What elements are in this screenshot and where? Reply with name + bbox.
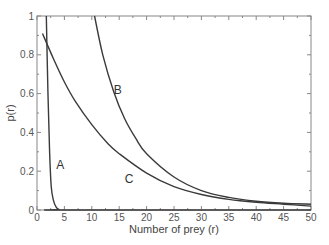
- x-tick-label: 40: [251, 212, 263, 223]
- x-tick-label: 10: [86, 212, 98, 223]
- curves: [42, 16, 311, 210]
- curve-labels: ABC: [56, 83, 133, 186]
- y-tick-label: 0.6: [20, 88, 34, 99]
- x-axis-label: Number of prey (r): [129, 223, 219, 235]
- y-tick-label: 0.8: [20, 49, 34, 60]
- x-tick-label: 20: [141, 212, 153, 223]
- x-tick-label: 45: [278, 212, 290, 223]
- curve-a: [45, 16, 311, 210]
- y-axis-label: p(r): [4, 104, 16, 121]
- y-tick-label: 1: [28, 11, 34, 22]
- x-tick-label: 50: [305, 212, 317, 223]
- chart: 05101520253035404550 00.20.40.60.81 ABC …: [0, 0, 329, 245]
- x-tick-label: 25: [168, 212, 180, 223]
- curve-c: [42, 33, 311, 206]
- curve-label-c: C: [125, 172, 134, 186]
- plot-frame: [37, 16, 311, 210]
- x-tick-label: 0: [34, 212, 40, 223]
- x-tick-label: 35: [223, 212, 235, 223]
- x-tick-label: 5: [62, 212, 68, 223]
- y-tick-label: 0.2: [20, 166, 34, 177]
- plot-border: [37, 16, 311, 210]
- x-axis-ticks: 05101520253035404550: [34, 16, 317, 223]
- x-tick-label: 15: [114, 212, 126, 223]
- curve-label-b: B: [114, 83, 122, 97]
- y-tick-label: 0: [28, 205, 34, 216]
- y-tick-label: 0.4: [20, 127, 34, 138]
- curve-label-a: A: [56, 158, 64, 172]
- y-axis-ticks: 00.20.40.60.81: [20, 11, 311, 216]
- x-tick-label: 30: [196, 212, 208, 223]
